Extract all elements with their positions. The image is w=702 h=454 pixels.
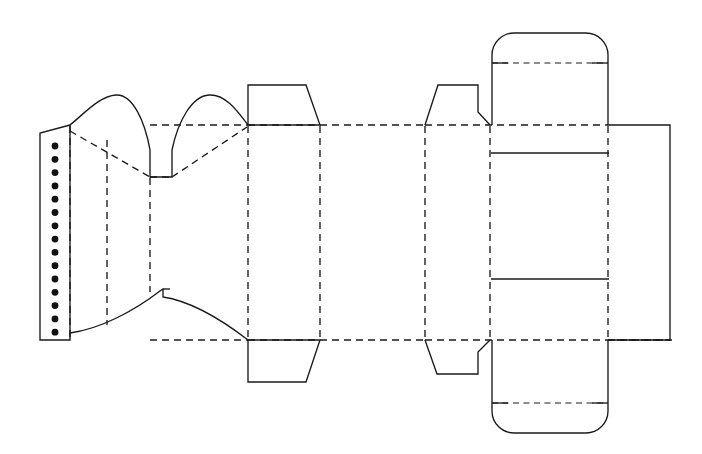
glue-dot — [52, 302, 59, 309]
glue-flap-group — [40, 125, 70, 340]
top-tuck-flap-cut — [492, 33, 608, 125]
diagonal-crease-top-left — [70, 131, 150, 177]
glue-dot — [52, 169, 59, 176]
glue-dot — [52, 329, 59, 336]
top-dust-flap-right — [425, 85, 490, 125]
back-panel-window-group — [491, 153, 609, 279]
glue-dot — [52, 262, 59, 269]
diagonal-crease-top-right — [172, 127, 247, 177]
glue-dot — [52, 249, 59, 256]
glue-dot-column — [52, 143, 59, 336]
glue-dot — [52, 289, 59, 296]
glue-dot — [52, 276, 59, 283]
glue-dot — [52, 236, 59, 243]
vertical-panel-folds — [248, 126, 608, 339]
top-tuck-flap-group — [492, 33, 608, 125]
end-flap-group — [608, 125, 670, 340]
dieline-drawing — [0, 0, 702, 454]
bottom-curved-gusset-wings-group — [70, 289, 248, 340]
top-dust-flaps-group — [248, 85, 490, 125]
bottom-dust-flap-left — [248, 340, 320, 382]
left-panel-creases — [107, 140, 150, 325]
glue-dot — [52, 222, 59, 229]
bottom-wing-left-cut — [70, 289, 248, 340]
bottom-tuck-flap-cut — [492, 340, 608, 433]
dieline-canvas — [0, 0, 702, 454]
glue-dot — [52, 156, 59, 163]
glue-dot — [52, 316, 59, 323]
end-flap-outline — [608, 125, 670, 340]
glue-dot — [52, 209, 59, 216]
top-curved-gusset-wings-group — [70, 95, 248, 177]
top-wing-left-cut — [70, 95, 248, 177]
glue-dot — [52, 183, 59, 190]
bottom-dust-flap-right — [425, 340, 490, 374]
top-dust-flap-left — [248, 85, 320, 125]
bottom-dust-flaps-group — [248, 340, 490, 382]
glue-dot — [52, 196, 59, 203]
bottom-tuck-flap-group — [492, 340, 608, 433]
body-creases — [150, 125, 672, 340]
glue-dot — [52, 143, 59, 150]
